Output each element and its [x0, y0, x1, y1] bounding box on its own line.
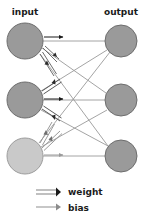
- input-node-1[interactable]: [7, 23, 43, 59]
- output-node-2[interactable]: [105, 84, 137, 116]
- legend-item-bias: bias: [36, 203, 89, 213]
- legend-label-weight: weight: [68, 187, 103, 197]
- connection-i3-o1: [39, 52, 110, 143]
- input-layer-label: input: [12, 7, 39, 17]
- legend-label-bias: bias: [68, 203, 89, 213]
- legend-item-weight: weight: [36, 187, 103, 197]
- input-node-2[interactable]: [7, 82, 43, 118]
- input-node-3[interactable]: [7, 138, 43, 174]
- output-node-1[interactable]: [105, 25, 137, 57]
- neural-network-diagram: input output: [0, 0, 148, 223]
- output-node-3[interactable]: [105, 140, 137, 172]
- diagram-canvas: input output: [0, 0, 148, 223]
- bias-legend-arrowhead-icon: [56, 204, 61, 211]
- input-node-group: [7, 23, 43, 174]
- weight-legend-arrowhead-icon: [56, 188, 61, 197]
- legend: weight bias: [36, 187, 103, 213]
- output-layer-label: output: [104, 7, 139, 17]
- weight-arrow-i3-d: [44, 134, 62, 151]
- output-node-group: [105, 25, 137, 172]
